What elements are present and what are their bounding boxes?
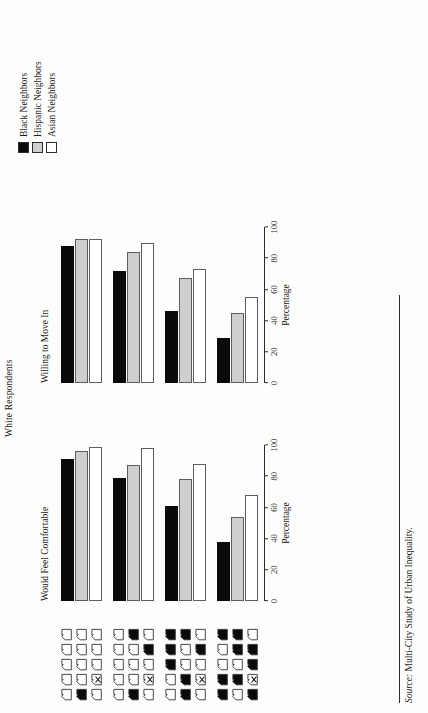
panel-title-move-in: Willing to Move In: [40, 310, 50, 383]
source-divider: [399, 295, 400, 703]
white-neighbor-house-icon: [75, 673, 88, 686]
black-neighbor-house-icon: [231, 673, 244, 686]
bar-asian-neighbors: [193, 269, 206, 383]
plot-area-comfortable: [56, 445, 264, 601]
bar-hispanic-neighbors: [75, 451, 88, 601]
bar-hispanic-neighbors: [179, 278, 192, 383]
white-neighbor-house-icon: [75, 643, 88, 656]
bar-asian-neighbors: [89, 447, 102, 601]
bar-asian-neighbors: [245, 297, 258, 383]
axis-tick: 40: [265, 534, 279, 543]
tick-label: 20: [269, 566, 279, 575]
bar-black-neighbors: [165, 506, 178, 601]
black-neighbor-house-icon: [75, 688, 88, 701]
black-neighbor-house-icon: [216, 673, 229, 686]
bar-hispanic-neighbors: [75, 239, 88, 383]
legend-item-black: Black Neighbors: [18, 61, 29, 153]
tick-label: 60: [269, 285, 279, 294]
black-neighbor-house-icon: [142, 643, 155, 656]
black-neighbor-house-icon: [179, 673, 192, 686]
black-neighbor-house-icon: [179, 688, 192, 701]
bar-group: [160, 227, 212, 383]
bar-hispanic-neighbors: [231, 517, 244, 601]
source-prefix: Source:: [404, 674, 414, 703]
respondent-house-icon: [90, 673, 103, 686]
tick-mark: [265, 351, 268, 352]
white-neighbor-house-icon: [90, 643, 103, 656]
axis-tick: 100: [265, 221, 279, 234]
tick-mark: [265, 320, 268, 321]
axis-tick: 60: [265, 503, 279, 512]
legend-label-hispanic: Hispanic Neighbors: [33, 61, 43, 137]
source-note: Source: Multi-City Study of Urban Inequa…: [404, 527, 414, 703]
axis-tick: 80: [265, 472, 279, 481]
white-neighbor-house-icon: [112, 643, 125, 656]
tick-mark: [265, 289, 268, 290]
bar-black-neighbors: [217, 542, 230, 601]
white-neighbor-house-icon: [112, 673, 125, 686]
legend-swatch-asian: [46, 142, 57, 153]
x-axis-move-in: 020406080100Percentage: [264, 227, 291, 383]
house-grid-2: [164, 627, 208, 701]
white-neighbor-house-icon: [246, 628, 259, 641]
tick-label: 100: [269, 439, 279, 452]
source-text: Multi-City Study of Urban Inequality.: [404, 527, 414, 674]
respondent-house-icon: [246, 673, 259, 686]
white-neighbor-house-icon: [194, 688, 207, 701]
plot-area-move-in: [56, 227, 264, 383]
x-axis-comfortable: 020406080100Percentage: [264, 445, 291, 601]
white-neighbor-house-icon: [90, 658, 103, 671]
white-neighbor-house-icon: [142, 688, 155, 701]
white-neighbor-house-icon: [112, 688, 125, 701]
tick-mark: [265, 445, 268, 446]
black-neighbor-house-icon: [127, 628, 140, 641]
bar-asian-neighbors: [89, 239, 102, 383]
legend-label-black: Black Neighbors: [19, 73, 29, 137]
axis-tick: 0: [265, 381, 279, 385]
bar-black-neighbors: [217, 338, 230, 383]
white-neighbor-house-icon: [179, 643, 192, 656]
black-neighbor-house-icon: [164, 643, 177, 656]
tick-mark: [265, 383, 268, 384]
bar-group: [108, 227, 160, 383]
white-neighbor-house-icon: [231, 658, 244, 671]
bar-group: [56, 227, 108, 383]
black-neighbor-house-icon: [216, 628, 229, 641]
bar-hispanic-neighbors: [127, 465, 140, 601]
black-neighbor-house-icon: [246, 643, 259, 656]
bar-group: [160, 445, 212, 601]
white-neighbor-house-icon: [231, 688, 244, 701]
tick-label: 40: [269, 534, 279, 543]
black-neighbor-house-icon: [179, 628, 192, 641]
bar-asian-neighbors: [141, 243, 154, 383]
house-grid-3: [216, 627, 260, 701]
black-neighbor-house-icon: [164, 628, 177, 641]
bar-black-neighbors: [113, 478, 126, 601]
white-neighbor-house-icon: [75, 628, 88, 641]
white-neighbor-house-icon: [60, 673, 73, 686]
white-neighbor-house-icon: [60, 643, 73, 656]
axis-label: Percentage: [281, 284, 291, 326]
tick-mark: [265, 476, 268, 477]
black-neighbor-house-icon: [194, 643, 207, 656]
white-neighbor-house-icon: [127, 643, 140, 656]
tick-mark: [265, 569, 268, 570]
white-neighbor-house-icon: [90, 688, 103, 701]
axis-label: Percentage: [281, 502, 291, 544]
legend-swatch-black: [18, 142, 29, 153]
bar-group: [108, 445, 160, 601]
tick-mark: [265, 258, 268, 259]
bar-asian-neighbors: [193, 464, 206, 601]
black-neighbor-house-icon: [127, 688, 140, 701]
tick-label: 80: [269, 254, 279, 263]
chart-legend: Black Neighbors Hispanic Neighbors Asian…: [18, 61, 57, 153]
bar-asian-neighbors: [141, 448, 154, 601]
tick-label: 0: [269, 599, 279, 603]
white-neighbor-house-icon: [60, 628, 73, 641]
white-neighbor-house-icon: [90, 628, 103, 641]
white-neighbor-house-icon: [142, 628, 155, 641]
white-neighbor-house-icon: [216, 658, 229, 671]
axis-tick: 40: [265, 316, 279, 325]
legend-swatch-hispanic: [32, 142, 43, 153]
legend-item-hispanic: Hispanic Neighbors: [32, 61, 43, 153]
